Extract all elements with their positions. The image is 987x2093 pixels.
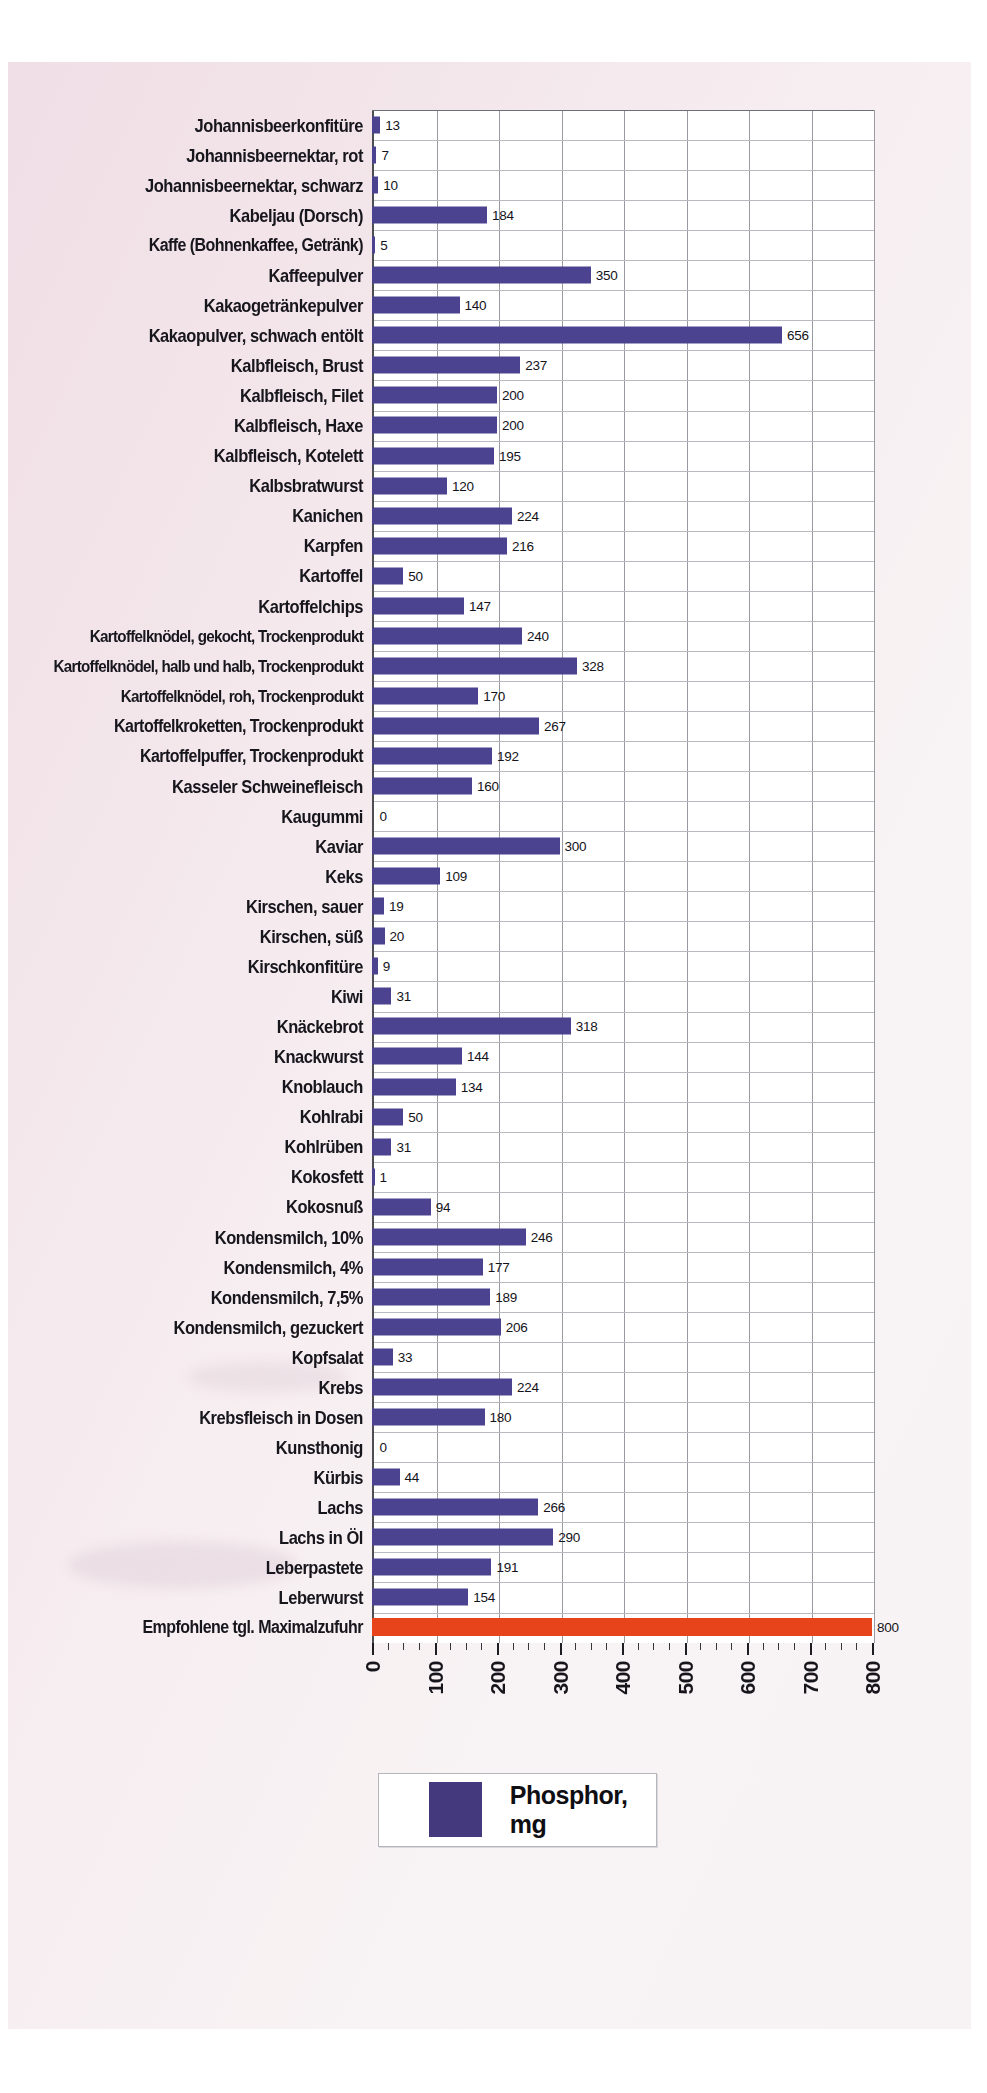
category-label: Kanichen [8, 506, 372, 525]
chart-row: Kartoffelknödel, gekocht, Trockenprodukt… [8, 621, 971, 651]
value-bar [372, 1529, 553, 1546]
value-label: 206 [506, 1319, 528, 1334]
value-bar [372, 838, 560, 855]
chart-row: Kopfsalat33 [8, 1342, 971, 1372]
axis-tick-major [685, 1643, 687, 1655]
chart-row: Knoblauch134 [8, 1072, 971, 1102]
bar-cell: 1 [372, 1162, 872, 1192]
value-label: 44 [405, 1470, 420, 1485]
chart-row: Kaviar300 [8, 831, 971, 861]
value-bar [372, 748, 492, 765]
chart-row: Lachs in Öl290 [8, 1522, 971, 1552]
bar-cell: 154 [372, 1582, 872, 1612]
axis-tick-label: 700 [800, 1661, 821, 1695]
chart-row: Kasseler Schweinefleisch160 [8, 771, 971, 801]
bar-cell: 290 [372, 1522, 872, 1552]
value-bar [372, 687, 478, 704]
chart-row: Kalbfleisch, Haxe200 [8, 410, 971, 440]
category-label: Kürbis [8, 1468, 372, 1487]
category-label: Knackwurst [8, 1047, 372, 1066]
bar-cell: 0 [372, 801, 872, 831]
value-bar [372, 717, 539, 734]
axis-tick-minor [481, 1643, 482, 1650]
axis-tick-minor [606, 1643, 607, 1650]
value-bar [372, 1018, 571, 1035]
bar-cell: 120 [372, 471, 872, 501]
category-label: Kabeljau (Dorsch) [8, 206, 372, 225]
category-label: Lachs [8, 1498, 372, 1517]
axis-tick-minor [388, 1643, 389, 1650]
value-bar [372, 207, 487, 224]
chart-row: Kaffe (Bohnenkaffee, Getränk)5 [8, 230, 971, 260]
axis-tick-label: 800 [862, 1661, 883, 1695]
legend-label: Phosphor, mg [510, 1781, 656, 1839]
category-label: Leberwurst [8, 1588, 372, 1607]
chart-row: Kartoffelchips147 [8, 591, 971, 621]
chart-row: Kalbfleisch, Filet200 [8, 380, 971, 410]
bar-cell: 13 [372, 110, 872, 140]
bar-cell: 191 [372, 1552, 872, 1582]
bar-cell: 109 [372, 861, 872, 891]
chart-row: Kondensmilch, 10%246 [8, 1222, 971, 1252]
category-label: Kasseler Schweinefleisch [8, 777, 372, 796]
bar-cell: 184 [372, 200, 872, 230]
value-label: 20 [390, 929, 405, 944]
value-bar [372, 297, 460, 314]
value-label: 13 [385, 118, 400, 133]
chart-row: Kokosfett1 [8, 1162, 971, 1192]
axis-tick-minor [763, 1643, 764, 1650]
axis-tick-minor [794, 1643, 795, 1650]
category-label: Kopfsalat [8, 1348, 372, 1367]
bar-cell: 7 [372, 140, 872, 170]
category-label: Kondensmilch, 10% [8, 1227, 372, 1246]
bar-cell: 44 [372, 1462, 872, 1492]
value-bar [372, 117, 380, 134]
axis-tick-minor [544, 1643, 545, 1650]
value-label: 189 [495, 1289, 517, 1304]
value-label: 9 [383, 959, 390, 974]
value-label: 216 [512, 538, 534, 553]
value-bar [372, 447, 494, 464]
value-bar [372, 537, 507, 554]
category-label: Kirschkonfitüre [8, 957, 372, 976]
axis-tick-minor [638, 1643, 639, 1650]
bar-cell: 134 [372, 1072, 872, 1102]
value-bar [372, 778, 472, 795]
axis-tick-minor [419, 1643, 420, 1650]
bar-cell: 656 [372, 320, 872, 350]
category-label: Kondensmilch, gezuckert [8, 1317, 372, 1336]
category-label: Kaffeepulver [8, 266, 372, 285]
bar-cell: 189 [372, 1282, 872, 1312]
value-bar [372, 958, 378, 975]
chart-row: Kalbfleisch, Kotelett195 [8, 441, 971, 471]
value-label: 5 [380, 238, 387, 253]
category-label: Kalbfleisch, Filet [8, 386, 372, 405]
value-bar [372, 177, 378, 194]
value-label: 266 [543, 1500, 565, 1515]
value-bar [372, 597, 464, 614]
chart-legend: Phosphor, mg [378, 1773, 657, 1847]
value-label: 800 [877, 1620, 899, 1635]
value-label: 195 [499, 448, 521, 463]
value-bar [372, 1228, 526, 1245]
axis-tick-minor [778, 1643, 779, 1650]
value-bar [372, 928, 385, 945]
axis-tick-minor [669, 1643, 670, 1650]
value-label: 192 [497, 749, 519, 764]
value-label: 300 [565, 839, 587, 854]
axis-tick-major [810, 1643, 812, 1655]
category-label: Kaugummi [8, 807, 372, 826]
bar-cell: 350 [372, 260, 872, 290]
chart-row: Kiwi31 [8, 981, 971, 1011]
value-label: 191 [496, 1560, 518, 1575]
bar-cell: 33 [372, 1342, 872, 1372]
chart-row: Kartoffelkroketten, Trockenprodukt267 [8, 711, 971, 741]
bar-cell: 206 [372, 1312, 872, 1342]
value-bar [372, 1469, 400, 1486]
category-label: Empfohlene tgl. Maximalzufuhr [8, 1618, 372, 1636]
bar-cell: 50 [372, 1102, 872, 1132]
category-label: Kondensmilch, 4% [8, 1257, 372, 1276]
value-label: 140 [465, 298, 487, 313]
bar-cell: 200 [372, 380, 872, 410]
category-label: Knäckebrot [8, 1017, 372, 1036]
